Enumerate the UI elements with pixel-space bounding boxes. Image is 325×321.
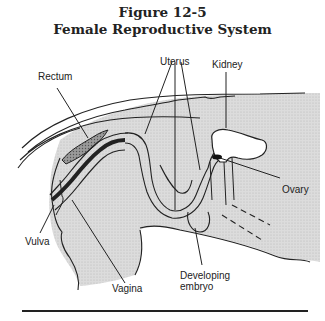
- reproductive-system-illustration: [0, 0, 325, 321]
- label-vagina: Vagina: [112, 283, 142, 294]
- bottom-rule: [22, 310, 308, 312]
- label-developing: Developing: [180, 270, 230, 281]
- label-ovary: Ovary: [282, 184, 309, 195]
- label-embryo: embryo: [180, 281, 230, 292]
- label-rectum: Rectum: [38, 71, 72, 82]
- label-vulva: Vulva: [25, 236, 50, 247]
- label-developing-embryo: Developing embryo: [180, 270, 230, 292]
- label-kidney: Kidney: [212, 59, 243, 70]
- label-uterus: Uterus: [160, 56, 189, 67]
